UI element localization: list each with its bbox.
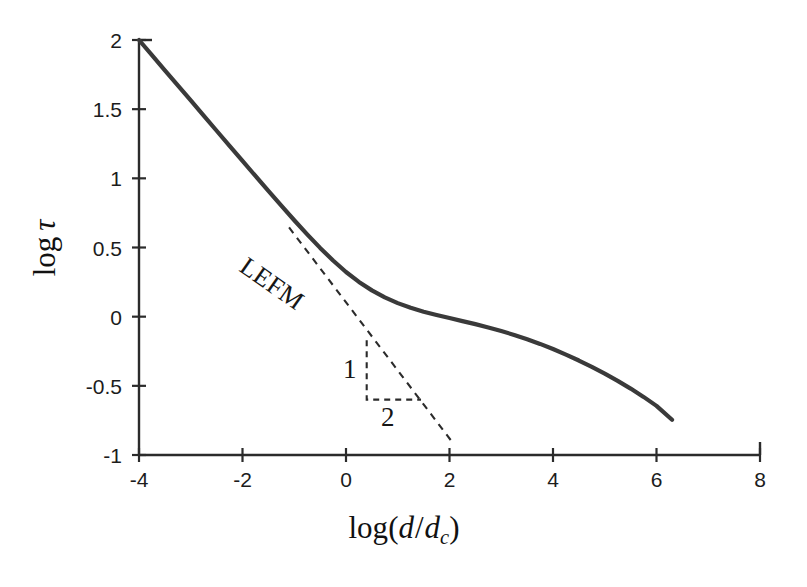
y-axis-title: logτ — [29, 220, 60, 277]
slope-triangle — [367, 340, 421, 399]
slope-rise-label: 1 — [343, 356, 357, 383]
y-tick-label: -0.5 — [86, 375, 122, 396]
y-tick-label: 1.5 — [93, 99, 122, 120]
y-tick-label: 0.5 — [93, 237, 122, 258]
lefm-asymptote-line — [289, 227, 453, 443]
x-axis-title-close-paren: ) — [449, 510, 459, 545]
y-tick-label: 2 — [110, 30, 122, 51]
x-tick-label: 2 — [444, 469, 456, 490]
x-axis-title: log(d/dc) — [349, 512, 460, 547]
x-tick-label: 8 — [754, 469, 766, 490]
x-tick-label: 0 — [340, 469, 352, 490]
axis-lines — [139, 40, 760, 455]
x-axis-title-log: log — [349, 510, 389, 545]
size-effect-curve — [139, 40, 672, 420]
x-axis-title-dc-base: d — [425, 510, 441, 545]
x-tick-label: 4 — [547, 469, 559, 490]
x-tick-label: -2 — [233, 469, 252, 490]
x-axis-title-d: d — [398, 510, 414, 545]
x-axis-title-dc-subscript: c — [440, 526, 449, 548]
x-tick-label: 6 — [651, 469, 663, 490]
plot-canvas — [0, 0, 807, 587]
x-axis-title-slash: / — [414, 510, 425, 545]
y-tick-label: 0 — [110, 306, 122, 327]
x-tick-label: -4 — [130, 469, 149, 490]
y-axis-title-log: log — [27, 237, 62, 277]
y-tick-label: -1 — [103, 445, 122, 466]
slope-run-label: 2 — [381, 404, 395, 431]
y-axis-title-tau: τ — [27, 220, 62, 237]
y-tick-label: 1 — [110, 168, 122, 189]
x-axis-title-open-paren: ( — [388, 510, 398, 545]
figure-container: -1-0.500.511.52 -4-202468 log(d/dc) logτ… — [0, 0, 807, 587]
